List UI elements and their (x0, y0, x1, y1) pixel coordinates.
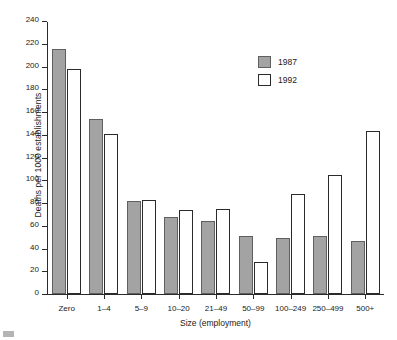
bar-group: 10–20 (160, 22, 197, 294)
bar-1992-250-499[interactable] (328, 175, 342, 294)
x-tick (365, 294, 366, 299)
bar-group: 500+ (347, 22, 384, 294)
bar-1987-100-249[interactable] (276, 238, 290, 294)
y-tick: 180 (42, 89, 47, 90)
y-tick-label: 20 (30, 265, 39, 274)
x-tick (328, 294, 329, 299)
bar-1987-10-20[interactable] (164, 217, 178, 294)
x-tick (141, 294, 142, 299)
x-axis-title: Size (employment) (47, 318, 384, 328)
corner-mark (3, 331, 14, 337)
y-tick-label: 200 (26, 61, 39, 70)
y-tick: 160 (42, 112, 47, 113)
x-tick (253, 294, 254, 299)
y-tick: 40 (42, 249, 47, 250)
bar-1992-5-9[interactable] (142, 200, 156, 294)
y-tick-label: 100 (26, 174, 39, 183)
y-tick-label: 80 (30, 197, 39, 206)
bar-1992-50-99[interactable] (254, 262, 268, 294)
y-tick: 80 (42, 203, 47, 204)
bar-1987-5-9[interactable] (127, 201, 141, 294)
bar-1992-10-20[interactable] (179, 210, 193, 294)
bar-1987-500+[interactable] (351, 241, 365, 294)
legend-item-1987[interactable]: 1987 (258, 53, 297, 71)
x-tick-label: 21–49 (205, 304, 227, 313)
x-tick (104, 294, 105, 299)
y-tick-label: 240 (26, 15, 39, 24)
bar-1987-Zero[interactable] (52, 49, 66, 294)
y-tick: 60 (42, 226, 47, 227)
x-tick-label: 10–20 (168, 304, 190, 313)
bar-1992-500+[interactable] (366, 131, 380, 294)
legend-swatch-1992 (258, 74, 271, 86)
bar-1987-21-49[interactable] (201, 221, 215, 294)
bar-group: 250–499 (309, 22, 346, 294)
legend-swatch-1987 (258, 56, 271, 68)
x-tick-label: 1–4 (97, 304, 110, 313)
y-tick: 0 (42, 294, 47, 295)
bar-1987-1-4[interactable] (89, 119, 103, 294)
legend-item-1992[interactable]: 1992 (258, 71, 297, 89)
y-tick-label: 220 (26, 38, 39, 47)
plot-area: 020406080100120140160180200220240 Zero1–… (47, 22, 384, 295)
bar-1992-1-4[interactable] (104, 134, 118, 294)
x-tick (67, 294, 68, 299)
y-tick-label: 160 (26, 106, 39, 115)
legend-label-1992: 1992 (278, 75, 297, 85)
bar-1987-250-499[interactable] (313, 236, 327, 294)
y-tick: 120 (42, 158, 47, 159)
y-tick: 100 (42, 180, 47, 181)
y-tick: 240 (42, 21, 47, 22)
x-tick-label: 50–99 (242, 304, 264, 313)
bar-group: 5–9 (123, 22, 160, 294)
bar-groups: Zero1–45–910–2021–4950–99100–249250–4995… (48, 22, 384, 294)
bar-group: 21–49 (197, 22, 234, 294)
y-tick-label: 180 (26, 83, 39, 92)
chart-legend: 19871992 (258, 53, 297, 89)
y-tick: 20 (42, 271, 47, 272)
legend-label-1987: 1987 (278, 57, 297, 67)
bar-1992-100-249[interactable] (291, 194, 305, 294)
y-tick-label: 0 (35, 288, 39, 297)
y-tick: 220 (42, 44, 47, 45)
y-tick-label: 120 (26, 152, 39, 161)
x-tick-label: 250–499 (312, 304, 343, 313)
y-tick: 140 (42, 135, 47, 136)
x-tick-label: Zero (58, 304, 74, 313)
bar-1992-Zero[interactable] (67, 69, 81, 294)
x-tick-label: 5–9 (135, 304, 148, 313)
x-tick-label: 100–249 (275, 304, 306, 313)
x-tick (216, 294, 217, 299)
x-tick (179, 294, 180, 299)
bar-1992-21-49[interactable] (216, 209, 230, 294)
x-tick (291, 294, 292, 299)
y-tick-label: 60 (30, 220, 39, 229)
bar-group: Zero (48, 22, 85, 294)
bar-group: 1–4 (85, 22, 122, 294)
chart-figure: Deaths per 1000 establishments 020406080… (0, 0, 397, 340)
y-tick-label: 40 (30, 243, 39, 252)
bar-1987-50-99[interactable] (239, 236, 253, 294)
y-tick: 200 (42, 67, 47, 68)
y-tick-label: 140 (26, 129, 39, 138)
x-tick-label: 500+ (356, 304, 374, 313)
